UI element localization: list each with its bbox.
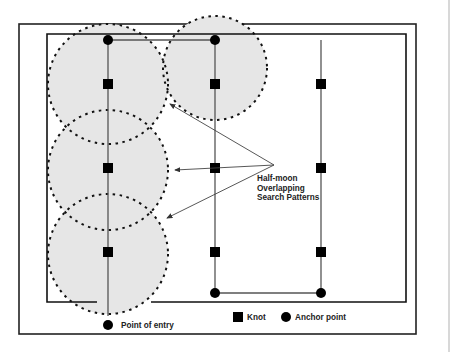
- anchor-point-icon: [210, 35, 220, 45]
- legend-anchor-icon: [281, 312, 291, 322]
- knot-icon: [210, 79, 220, 89]
- knot-icon: [103, 163, 113, 173]
- knot-icon: [316, 247, 326, 257]
- anchor-point-icon: [103, 35, 113, 45]
- entry-label: Point of entry: [121, 321, 174, 330]
- entry-point-icon: [103, 320, 113, 330]
- legend-knot-label: Knot: [247, 313, 266, 322]
- search-pattern-diagram: Half-moon Overlapping Search Patterns Po…: [0, 0, 450, 352]
- knot-icon: [316, 79, 326, 89]
- anchor-point-icon: [316, 288, 326, 298]
- legend-knot-icon: [233, 312, 243, 322]
- knot-icon: [103, 247, 113, 257]
- knot-icon: [103, 79, 113, 89]
- anchor-point-icon: [210, 288, 220, 298]
- knot-icon: [316, 163, 326, 173]
- legend-anchor-label: Anchor point: [295, 313, 346, 322]
- knot-icon: [210, 247, 220, 257]
